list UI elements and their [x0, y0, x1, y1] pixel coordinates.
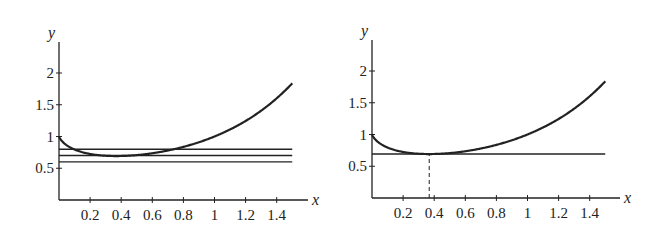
x-tick-label: 0.8	[487, 205, 506, 221]
right-chart: xy0.20.40.60.811.21.40.511.52	[348, 22, 631, 221]
x-tick-label: 0.2	[394, 205, 413, 221]
x-tick-label: 1.4	[267, 207, 286, 223]
left-chart: xy0.20.40.60.811.21.40.511.52	[35, 24, 319, 223]
y-tick-label: 0.5	[35, 160, 54, 176]
y-tick-label: 1	[360, 127, 368, 143]
y-tick-label: 2	[360, 63, 368, 79]
x-tick-label: 0.4	[425, 205, 444, 221]
x-tick-label: 1.2	[236, 207, 255, 223]
x-tick-label: 0.4	[112, 207, 131, 223]
x-tick-label: 1	[211, 207, 219, 223]
curve-x-pow-x	[372, 81, 605, 154]
curve-x-pow-x	[59, 83, 292, 156]
y-tick-label: 1.5	[348, 95, 367, 111]
x-tick-label: 1.2	[549, 205, 568, 221]
x-axis-label: x	[311, 191, 319, 208]
x-tick-label: 0.2	[81, 207, 100, 223]
y-axis-label: y	[46, 24, 56, 42]
y-tick-label: 1.5	[35, 97, 54, 113]
y-tick-label: 2	[47, 65, 55, 81]
y-tick-label: 0.5	[348, 158, 367, 174]
x-tick-label: 0.6	[456, 205, 475, 221]
x-axis-label: x	[623, 189, 631, 206]
x-tick-label: 1	[524, 205, 532, 221]
x-tick-label: 1.4	[580, 205, 599, 221]
y-tick-label: 1	[47, 129, 55, 145]
x-tick-label: 0.6	[143, 207, 162, 223]
x-tick-label: 0.8	[174, 207, 193, 223]
figure-canvas: xy0.20.40.60.811.21.40.511.52 xy0.20.40.…	[0, 0, 649, 236]
y-axis-label: y	[359, 22, 369, 40]
